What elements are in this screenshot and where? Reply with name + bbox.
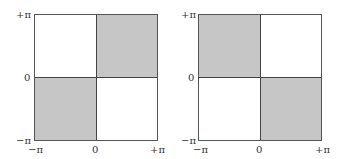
left-quadrant-bottom-left-shaded: [35, 78, 96, 141]
right-quadrant-bottom-right-shaded: [260, 78, 321, 141]
right-y-label-top: +π: [181, 10, 196, 20]
left-quadrant-bottom-right: [96, 78, 157, 141]
right-x-label-right: +π: [315, 145, 330, 155]
right-x-label-left: −π: [193, 145, 208, 155]
left-x-label-middle: 0: [92, 145, 98, 155]
right-quadrant-top-right: [260, 15, 321, 78]
left-phase-diagram: [34, 14, 158, 141]
right-quadrant-bottom-left: [199, 78, 260, 141]
left-quadrant-top-left: [35, 15, 96, 78]
left-x-label-right: +π: [150, 145, 165, 155]
left-y-label-middle: 0: [24, 73, 30, 83]
right-quadrant-top-left-shaded: [199, 15, 260, 78]
left-vertical-divider: [96, 15, 97, 140]
right-x-label-middle: 0: [256, 145, 262, 155]
right-phase-diagram: [198, 14, 322, 141]
right-y-label-middle: 0: [188, 73, 194, 83]
left-x-label-left: −π: [28, 145, 43, 155]
left-y-label-top: +π: [16, 10, 31, 20]
left-quadrant-top-right-shaded: [96, 15, 157, 78]
right-vertical-divider: [260, 15, 261, 140]
